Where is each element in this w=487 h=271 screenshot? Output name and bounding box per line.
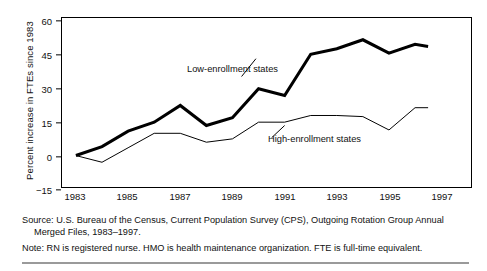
y-tick-label-30: 30	[41, 84, 52, 95]
y-tick-label-60: 60	[41, 16, 52, 27]
x-tick-label-1993: 1993	[326, 191, 347, 202]
x-tick-label-1997: 1997	[431, 191, 452, 202]
x-tick-label-1983: 1983	[64, 191, 85, 202]
x-tick-label-1991: 1991	[274, 191, 295, 202]
y-tick-label-0: 0	[47, 152, 52, 163]
x-tick-label-1987: 1987	[169, 191, 190, 202]
figure-footnotes: Source: U.S. Bureau of the Census, Curre…	[22, 214, 474, 254]
note-line: Note: RN is registered nurse. HMO is hea…	[22, 242, 474, 254]
series-line-high-enrollment-states	[76, 108, 428, 163]
source-line-2: Merged Files, 1983–1997.	[22, 226, 474, 238]
y-tick-label-45: 45	[41, 50, 52, 61]
x-tick-label-1989: 1989	[221, 191, 242, 202]
series-label-high-enrollment-states: High-enrollment states	[268, 134, 361, 144]
figure-root: Percent increase in FTEs since 1983 60 4…	[0, 0, 487, 271]
x-axis-tick-labels: 1983 1985 1987 1989 1991 1993 1995 1997	[0, 191, 487, 207]
y-tick-label-15: 15	[41, 118, 52, 129]
bottom-rule	[22, 262, 469, 264]
series-label-low-enrollment-states: Low-enrollment states	[187, 64, 278, 74]
plot-area	[61, 17, 472, 188]
source-line-1: Source: U.S. Bureau of the Census, Curre…	[22, 215, 444, 225]
x-tick-label-1995: 1995	[379, 191, 400, 202]
x-tick-label-1985: 1985	[116, 191, 137, 202]
series-canvas	[62, 18, 471, 187]
series-line-low-enrollment-states	[76, 40, 428, 156]
